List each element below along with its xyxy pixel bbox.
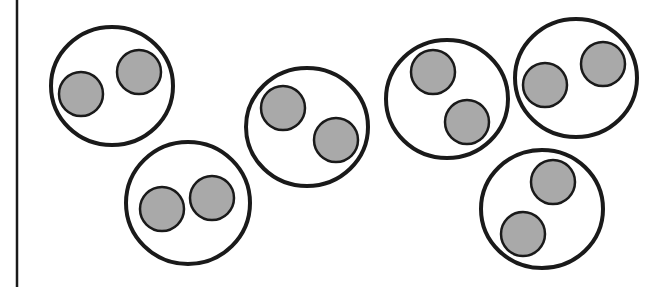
particle-1	[261, 86, 305, 130]
molecule-group-3	[246, 68, 368, 186]
molecule-group-6	[481, 150, 603, 268]
particle-2	[117, 50, 161, 94]
particle-2	[531, 160, 575, 204]
molecule-group-1	[51, 27, 173, 145]
molecule-group-4	[386, 40, 508, 158]
particle-2	[445, 100, 489, 144]
particle-2	[314, 118, 358, 162]
particle-1	[59, 72, 103, 116]
diagram-canvas	[0, 0, 660, 287]
particle-2	[581, 42, 625, 86]
particle-2	[190, 176, 234, 220]
molecule-group-2	[126, 142, 250, 264]
particle-1	[523, 63, 567, 107]
particle-1	[501, 212, 545, 256]
molecule-group-5	[515, 19, 637, 137]
particle-1	[411, 50, 455, 94]
particle-1	[140, 187, 184, 231]
